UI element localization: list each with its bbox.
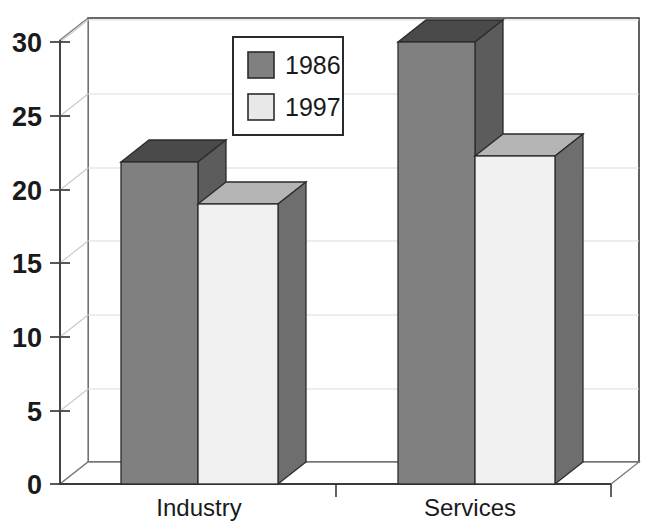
y-tick-label-5: 5 xyxy=(27,397,42,427)
x-category-label-services: Services xyxy=(424,494,516,521)
y-tick-label-25: 25 xyxy=(12,102,42,132)
legend-entry-1986[interactable]: 1986 xyxy=(248,51,341,79)
bar-side-face xyxy=(555,134,583,484)
legend: 1986 1997 xyxy=(233,37,343,135)
legend-label-1986: 1986 xyxy=(285,51,341,79)
legend-swatch-1997 xyxy=(248,94,274,120)
bar-front-face xyxy=(475,156,555,484)
y-tick-label-30: 30 xyxy=(12,28,42,58)
x-axis-labels: Industry Services xyxy=(156,494,516,521)
bar-side-face xyxy=(278,182,306,484)
bar-services-1997[interactable] xyxy=(475,134,583,484)
bar-front-face xyxy=(398,42,475,484)
bar-chart-3d: 30 25 20 15 10 5 0 xyxy=(0,0,659,524)
y-tick-label-20: 20 xyxy=(12,176,42,206)
x-category-label-industry: Industry xyxy=(156,494,241,521)
y-tick-label-15: 15 xyxy=(12,249,42,279)
bar-industry-1997[interactable] xyxy=(198,182,306,484)
legend-label-1997: 1997 xyxy=(285,93,341,121)
chart-container: 30 25 20 15 10 5 0 xyxy=(0,0,659,524)
legend-entry-1997[interactable]: 1997 xyxy=(248,93,341,121)
y-tick-label-0: 0 xyxy=(27,470,42,500)
bar-front-face xyxy=(198,204,278,484)
left-wall xyxy=(60,18,88,484)
y-axis-labels: 30 25 20 15 10 5 0 xyxy=(12,28,42,500)
bar-front-face xyxy=(121,162,198,484)
y-tick-label-10: 10 xyxy=(12,323,42,353)
legend-swatch-1986 xyxy=(248,52,274,78)
